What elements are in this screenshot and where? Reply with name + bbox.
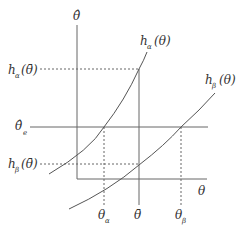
h-alpha-theta-bar-label: h α (θ̄) [8,63,38,80]
svg-text:β: β [211,82,216,90]
theta-beta-label: θ β [175,208,186,225]
svg-text:α: α [105,217,110,225]
theta-alpha-label: θ α [98,208,110,225]
h-beta-label: h β (θ) [205,73,236,90]
h-beta-theta-bar-label: h β (θ̄) [8,157,38,174]
svg-text:β: β [181,217,186,225]
svg-text:α: α [147,43,152,51]
svg-text:(θ): (θ) [219,73,236,87]
svg-text:(θ̄): (θ̄) [21,63,38,77]
svg-text:e: e [23,129,27,137]
theta-bar-label: θ̄ [134,208,142,222]
svg-text:α: α [15,72,20,80]
y-axis-label: θ̂ [73,9,81,23]
svg-text:β: β [14,166,19,174]
h-alpha-label: h α (θ) [140,34,171,51]
x-axis-label: θ [198,184,206,198]
diagram-canvas: θ̂ θ h α (θ) h β (θ) h α (θ̄) θ̂ e h β (… [0,0,238,235]
theta-hat-e-label: θ̂ e [15,119,27,137]
svg-text:(θ̄): (θ̄) [21,157,38,171]
svg-text:θ̄: θ̄ [134,208,142,222]
svg-text:θ̂: θ̂ [15,119,23,133]
h-beta-curve [69,93,215,209]
svg-text:(θ): (θ) [154,34,171,48]
h-alpha-curve [49,52,147,174]
